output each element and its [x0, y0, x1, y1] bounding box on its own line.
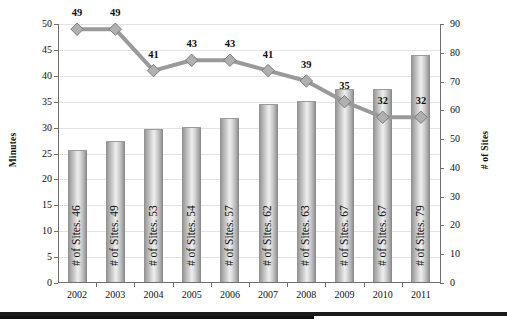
line-data-label: 43	[177, 39, 207, 50]
x-axis-tick	[96, 283, 97, 287]
y-axis-right-tick-label: 0	[450, 278, 476, 288]
y-axis-left-tick-label: 0	[26, 278, 52, 288]
line-data-label: 32	[368, 96, 398, 107]
bar-label: # of Sites. 53	[148, 205, 160, 266]
y-axis-right-tick-label: 30	[450, 192, 476, 202]
line-data-label: 43	[215, 39, 245, 50]
y-axis-left-tick-label: 5	[26, 252, 52, 262]
y-axis-right-tick-label: 90	[450, 19, 476, 29]
x-axis-tick	[364, 283, 365, 287]
x-axis-tick	[211, 283, 212, 287]
y-axis-right-tick-label: 40	[450, 163, 476, 173]
x-axis-tick	[249, 283, 250, 287]
bar: # of Sites. 79	[411, 55, 430, 283]
x-axis-tick	[173, 283, 174, 287]
bar-label: # of Sites. 57	[224, 205, 236, 266]
y-axis-right-tick-label: 10	[450, 249, 476, 259]
gridline	[58, 76, 440, 77]
bar: # of Sites. 53	[144, 129, 163, 283]
y-axis-left-tick-label: 40	[26, 71, 52, 81]
y-axis-right-tick	[440, 283, 444, 284]
gridline	[58, 50, 440, 51]
y-axis-right-tick-label: 50	[450, 134, 476, 144]
bar-label: # of Sites. 63	[301, 205, 313, 266]
y-axis-left-tick-label: 10	[26, 226, 52, 236]
line-data-label: 32	[406, 96, 436, 107]
chart-container: Minutes # of Sites 05101520253035404550 …	[0, 0, 507, 322]
line-data-label: 41	[139, 50, 169, 61]
x-axis-tick	[287, 283, 288, 287]
y-axis-right-tick-label: 70	[450, 77, 476, 87]
y-axis-right-tick-label: 20	[450, 220, 476, 230]
x-axis-tick	[134, 283, 135, 287]
x-axis-tick	[402, 283, 403, 287]
bar-label: # of Sites. 67	[377, 205, 389, 266]
gridline	[58, 24, 440, 25]
bar-label: # of Sites. 79	[415, 205, 427, 266]
y-axis-left-tick-label: 50	[26, 19, 52, 29]
bar: # of Sites. 67	[335, 89, 354, 283]
y-axis-right-tick-label: 80	[450, 48, 476, 58]
plot-area: 05101520253035404550 0102030405060708090…	[58, 24, 440, 283]
bar-label: # of Sites. 67	[339, 205, 351, 266]
line-marker	[224, 54, 236, 66]
bar-label: # of Sites. 54	[186, 205, 198, 266]
y-axis-left-tick-label: 15	[26, 200, 52, 210]
line-data-label: 39	[291, 60, 321, 71]
y-axis-left-tick-label: 45	[26, 45, 52, 55]
bar-label: # of Sites. 46	[71, 205, 83, 266]
y-axis-right-line	[440, 24, 441, 283]
y-axis-left-line	[58, 24, 59, 283]
y-axis-right-title: # of Sites	[480, 120, 490, 180]
bar: # of Sites. 63	[297, 101, 316, 283]
y-axis-right-tick-label: 60	[450, 105, 476, 115]
y-axis-left-title: Minutes	[8, 120, 18, 180]
y-axis-left-tick	[54, 283, 58, 284]
line-data-label: 49	[100, 8, 130, 19]
y-axis-left-tick-label: 30	[26, 123, 52, 133]
x-axis-label: 2011	[398, 289, 444, 300]
bar: # of Sites. 67	[373, 89, 392, 283]
y-axis-left-tick-label: 20	[26, 174, 52, 184]
line-data-label: 41	[253, 50, 283, 61]
bar: # of Sites. 49	[106, 141, 125, 283]
bar: # of Sites. 62	[259, 104, 278, 283]
y-axis-left-tick-label: 35	[26, 97, 52, 107]
footer-rule-secondary	[0, 316, 314, 319]
line-marker	[186, 54, 198, 66]
bar-label: # of Sites. 62	[262, 205, 274, 266]
bar: # of Sites. 54	[182, 127, 201, 283]
bar: # of Sites. 46	[68, 150, 87, 283]
x-axis-tick	[325, 283, 326, 287]
bar: # of Sites. 57	[220, 118, 239, 283]
y-axis-left-tick-label: 25	[26, 149, 52, 159]
bar-label: # of Sites. 49	[110, 205, 122, 266]
line-data-label: 35	[330, 81, 360, 92]
line-data-label: 49	[62, 8, 92, 19]
